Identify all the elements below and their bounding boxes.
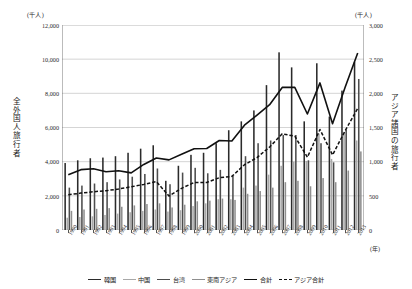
bar — [104, 215, 106, 230]
bar — [180, 210, 182, 230]
bar — [220, 170, 222, 230]
line-total — [68, 53, 357, 175]
left-tick-label: 0 — [26, 227, 59, 234]
legend-swatch — [192, 279, 205, 280]
bar — [268, 175, 270, 230]
x-axis-tick — [232, 230, 233, 233]
bar — [119, 179, 121, 230]
bar — [358, 79, 360, 230]
bar — [203, 153, 205, 230]
bar — [152, 145, 154, 230]
legend-label: 韓国 — [104, 275, 116, 284]
left-tick-label: 6,000 — [26, 124, 59, 131]
bar — [280, 166, 282, 230]
bar — [343, 132, 345, 230]
bar — [306, 161, 308, 230]
x-axis-tick — [282, 230, 283, 233]
legend-label: 台湾 — [173, 275, 185, 284]
x-axis-tick — [144, 230, 145, 233]
bar — [318, 134, 320, 230]
bar — [295, 135, 297, 230]
chart-container: (千人) (千人) 全外国人旅行者 アジア諸国の旅行者 12,00010,000… — [0, 0, 412, 289]
x-axis-tick — [320, 230, 321, 233]
x-axis-tick — [307, 230, 308, 233]
x-axis-tick — [244, 230, 245, 233]
legend-swatch — [279, 279, 292, 280]
bar — [79, 217, 81, 230]
left-tick-label: 10,000 — [26, 56, 59, 63]
x-axis-tick — [169, 230, 170, 233]
bar — [217, 199, 219, 230]
x-axis-tick — [119, 230, 120, 233]
bar — [157, 169, 159, 231]
right-tick-label: 2,000 — [369, 90, 399, 97]
right-tick-label: 1,500 — [369, 124, 399, 131]
bar — [331, 159, 333, 230]
bar — [253, 110, 255, 230]
bar — [308, 160, 310, 230]
x-axis-tick — [68, 230, 69, 233]
bar — [230, 199, 232, 230]
bar — [285, 182, 287, 230]
bar — [131, 177, 133, 230]
bar — [329, 117, 331, 230]
bar — [165, 181, 167, 230]
bar — [243, 188, 245, 230]
x-axis-tick — [270, 230, 271, 233]
x-axis-tick — [194, 230, 195, 233]
legend-item: 韓国 — [88, 275, 116, 284]
bar — [291, 67, 293, 230]
bar — [127, 153, 129, 230]
left-tick-label: 4,000 — [26, 158, 59, 165]
left-axis-title: 全外国人旅行者 — [11, 98, 22, 158]
left-axis-unit: (千人) — [27, 10, 44, 19]
bar — [356, 140, 358, 230]
left-tick-label: 12,000 — [26, 22, 59, 29]
bar — [345, 130, 347, 230]
x-axis-tick — [182, 230, 183, 233]
x-axis-tick — [257, 230, 258, 233]
bar — [178, 166, 180, 230]
x-axis-tick — [358, 230, 359, 233]
bar — [94, 184, 96, 230]
bar — [270, 140, 272, 230]
bar — [182, 173, 184, 230]
bar — [320, 143, 322, 230]
bar — [333, 162, 335, 230]
legend-swatch — [244, 279, 257, 280]
bar — [129, 212, 131, 230]
x-axis-tick — [219, 230, 220, 233]
legend-label: 合計 — [260, 275, 272, 284]
bar — [303, 121, 305, 230]
bar — [215, 143, 217, 230]
bar — [115, 156, 117, 230]
x-axis-tick — [345, 230, 346, 233]
x-axis-tick — [207, 230, 208, 233]
x-axis-tick — [93, 230, 94, 233]
right-tick-label: 0 — [369, 227, 399, 234]
x-axis-unit: (年) — [370, 244, 380, 253]
bar — [167, 212, 169, 230]
bar — [354, 62, 356, 230]
legend-item: 中国 — [123, 275, 151, 284]
legend-label: 中国 — [138, 275, 150, 284]
line-asia-total — [68, 108, 357, 196]
plot-svg — [62, 25, 364, 230]
bar — [360, 151, 362, 230]
bar — [142, 211, 144, 230]
bar — [194, 168, 196, 230]
bar — [190, 155, 192, 230]
right-axis-unit: (千人) — [355, 10, 372, 19]
right-tick-label: 500 — [369, 193, 399, 200]
bar — [169, 184, 171, 230]
bar — [117, 214, 119, 230]
legend-swatch — [123, 279, 136, 280]
x-axis-tick — [131, 230, 132, 233]
bar — [144, 174, 146, 230]
x-axis-tick — [295, 230, 296, 233]
bar — [282, 135, 284, 230]
bar — [66, 218, 68, 230]
x-axis-tick — [106, 230, 107, 233]
legend-item: 合計 — [244, 275, 272, 284]
bar — [241, 121, 243, 230]
